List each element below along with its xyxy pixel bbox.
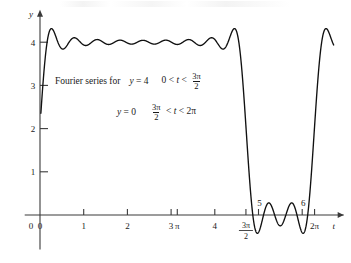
- caption-cond-var-2: t: [174, 106, 177, 116]
- caption-equals-1: =: [136, 76, 141, 86]
- caption-cond-rel-1: <: [181, 75, 186, 85]
- caption-fraction-3pi-2-a: 3π 2: [191, 72, 202, 90]
- x-tick-label-1: 1: [81, 221, 86, 231]
- figure-caption: Fourier series for y = 4 0 < t < 3π 2 y …: [55, 72, 305, 121]
- caption-cond-1: 0 < t < 3π 2: [162, 72, 204, 90]
- y-tick-label-4: 4: [31, 38, 36, 48]
- caption-lead: Fourier series for: [55, 76, 120, 86]
- x-tick-label-4: 4: [213, 221, 218, 231]
- caption-cond-2: 3π 2 < t < 2π: [149, 103, 196, 121]
- fourier-series-curve: [41, 29, 334, 234]
- caption-cond-rel-2a: <: [166, 106, 171, 116]
- plot-canvas: 0123π43π2562πt12340y: [0, 0, 351, 263]
- fraction-denominator: 2: [153, 112, 159, 122]
- axes-group: [25, 10, 344, 250]
- y-tick-label-1: 1: [31, 167, 36, 177]
- ticks-group: [40, 42, 315, 215]
- x-axis-name: t: [332, 221, 335, 231]
- x-tick-label-3pi-numerator: 3π: [242, 221, 250, 230]
- caption-eq-2: y = 0: [117, 107, 136, 117]
- x-tick-label-3: 3: [169, 221, 174, 231]
- fraction-numerator: 3π: [191, 72, 202, 81]
- caption-cond-left-1: 0 <: [162, 75, 174, 85]
- origin-label-0: 0: [29, 221, 34, 231]
- x-tick-label-2π: 2π: [310, 221, 320, 231]
- y-tick-label-3: 3: [31, 81, 36, 91]
- x-axis-arrowhead: [338, 212, 344, 218]
- caption-fraction-3pi-2-b: 3π 2: [151, 103, 162, 121]
- caption-eq-1: y = 4: [129, 76, 148, 86]
- x-tick-label-π: π: [175, 221, 180, 231]
- fraction-denominator: 2: [193, 81, 199, 91]
- fraction-numerator: 3π: [151, 103, 162, 112]
- x-tick-label-6: 6: [301, 198, 306, 208]
- caption-equals-2: =: [124, 107, 129, 117]
- caption-line-1: Fourier series for y = 4 0 < t < 3π 2: [55, 72, 305, 90]
- x-tick-label-0: 0: [38, 221, 43, 231]
- caption-var-y2: y: [117, 107, 121, 117]
- y-tick-label-2: 2: [31, 124, 36, 134]
- caption-value-4: 4: [144, 76, 149, 86]
- x-tick-label-3pi-denominator: 2: [244, 232, 248, 241]
- y-axis-name: y: [28, 9, 33, 19]
- x-tick-label-5: 5: [257, 198, 262, 208]
- x-tick-label-2: 2: [125, 221, 130, 231]
- y-axis-arrowhead: [37, 10, 43, 17]
- caption-cond-var-1: t: [176, 75, 179, 85]
- caption-value-0: 0: [131, 107, 136, 117]
- caption-var-y1: y: [129, 76, 133, 86]
- caption-cond-right-2: 2π: [186, 106, 196, 116]
- fourier-series-figure: 0123π43π2562πt12340y: [0, 0, 351, 263]
- caption-cond-rel-2b: <: [179, 106, 184, 116]
- caption-line-2: y = 0 3π 2 < t < 2π: [117, 103, 305, 121]
